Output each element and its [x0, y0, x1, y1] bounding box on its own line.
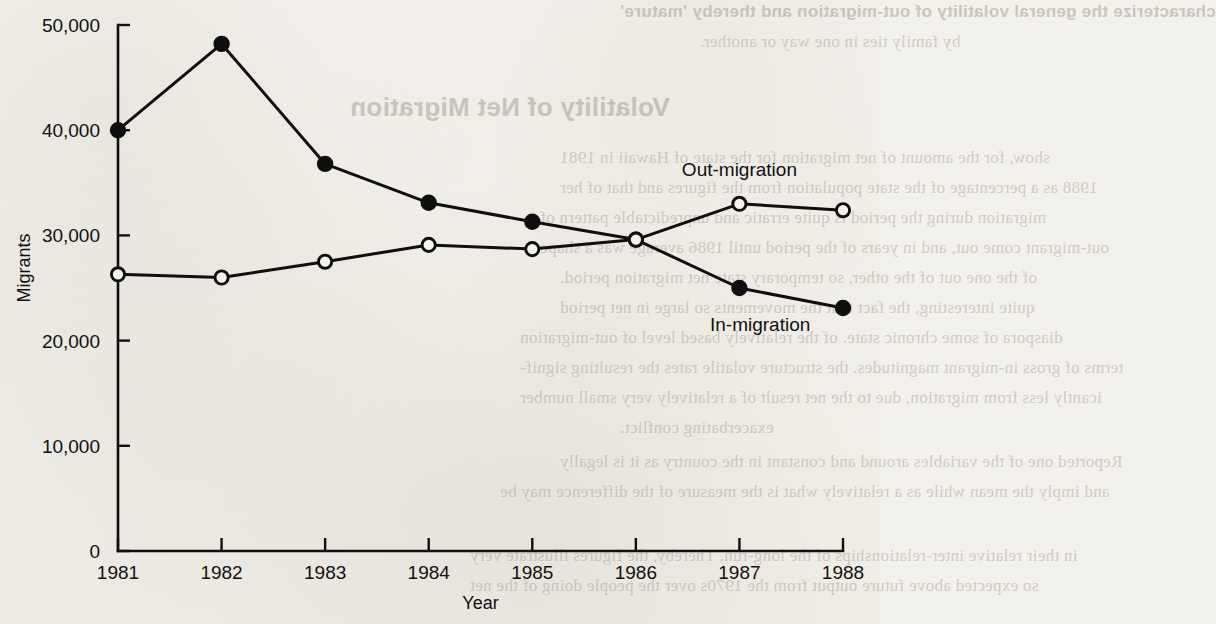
- data-point-marker: [732, 281, 746, 295]
- y-axis-title: Migrants: [14, 233, 34, 302]
- data-point-marker: [422, 238, 435, 251]
- data-point-marker: [422, 196, 436, 210]
- x-tick-label: 1986: [615, 562, 657, 583]
- y-tick-label: 20,000: [42, 331, 100, 352]
- x-tick-label: 1984: [408, 562, 451, 583]
- data-point-marker: [215, 37, 229, 51]
- x-axis: 19811982198319841985198619871988: [97, 538, 864, 583]
- data-point-marker: [319, 255, 332, 268]
- y-tick-label: 10,000: [42, 436, 100, 457]
- series-label: Out-migration: [682, 159, 797, 180]
- data-point-marker: [111, 123, 125, 137]
- x-tick-label: 1987: [718, 562, 760, 583]
- y-axis: 010,00020,00030,00040,00050,000: [42, 15, 130, 562]
- data-point-marker: [526, 243, 539, 256]
- x-tick-label: 1982: [200, 562, 242, 583]
- data-point-marker: [836, 301, 850, 315]
- series-label: In-migration: [710, 314, 810, 335]
- axis-titles: YearMigrants: [14, 233, 499, 613]
- data-point-marker: [318, 157, 332, 171]
- x-axis-title: Year: [462, 593, 498, 613]
- series-line-2: [118, 204, 843, 278]
- data-point-marker: [629, 233, 642, 246]
- y-tick-label: 50,000: [42, 15, 100, 36]
- series-annotations: Out-migrationIn-migration: [682, 159, 810, 335]
- data-point-marker: [733, 197, 746, 210]
- data-point-marker: [111, 268, 124, 281]
- y-tick-label: 40,000: [42, 120, 100, 141]
- data-point-marker: [525, 215, 539, 229]
- x-tick-label: 1985: [511, 562, 553, 583]
- x-tick-label: 1983: [304, 562, 346, 583]
- y-tick-label: 0: [89, 541, 100, 562]
- x-tick-label: 1988: [822, 562, 864, 583]
- data-point-marker: [836, 204, 849, 217]
- x-tick-label: 1981: [97, 562, 139, 583]
- y-tick-label: 30,000: [42, 225, 100, 246]
- data-point-marker: [215, 271, 228, 284]
